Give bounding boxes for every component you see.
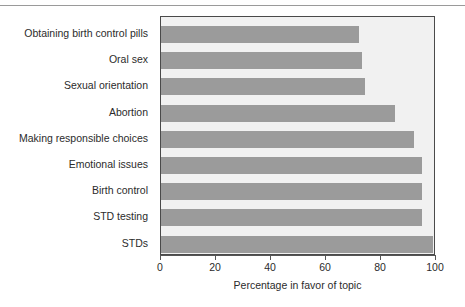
category-label: Sexual orientation bbox=[0, 79, 148, 91]
bar bbox=[161, 78, 365, 95]
bar-series bbox=[161, 17, 434, 254]
category-label: STDs bbox=[0, 237, 148, 249]
x-tick-label: 0 bbox=[157, 261, 163, 273]
bar-row bbox=[161, 236, 434, 253]
bar-row bbox=[161, 209, 434, 226]
bar bbox=[161, 26, 359, 43]
bar-chart-figure: Obtaining birth control pillsOral sexSex… bbox=[0, 0, 465, 307]
category-label: Abortion bbox=[0, 106, 148, 118]
bar bbox=[161, 131, 414, 148]
x-axis-line bbox=[160, 255, 435, 256]
bar-row bbox=[161, 26, 434, 43]
category-label: Making responsible choices bbox=[0, 132, 148, 144]
x-tick-mark bbox=[215, 255, 216, 260]
plot-area bbox=[160, 16, 435, 255]
x-tick-label: 80 bbox=[374, 261, 386, 273]
bar-row bbox=[161, 105, 434, 122]
bar bbox=[161, 209, 422, 226]
x-tick-label: 100 bbox=[426, 261, 444, 273]
x-tick-mark bbox=[380, 255, 381, 260]
x-tick-mark bbox=[160, 255, 161, 260]
bar bbox=[161, 105, 395, 122]
category-label: Oral sex bbox=[0, 53, 148, 65]
category-label: Birth control bbox=[0, 184, 148, 196]
category-label: Emotional issues bbox=[0, 158, 148, 170]
bar bbox=[161, 157, 422, 174]
category-label: Obtaining birth control pills bbox=[0, 27, 148, 39]
bar-row bbox=[161, 131, 434, 148]
top-divider-rule bbox=[0, 5, 465, 6]
bar-row bbox=[161, 157, 434, 174]
bar-row bbox=[161, 78, 434, 95]
bar-row bbox=[161, 52, 434, 69]
x-tick-mark bbox=[270, 255, 271, 260]
bar bbox=[161, 52, 362, 69]
bar bbox=[161, 183, 422, 200]
x-tick-mark bbox=[325, 255, 326, 260]
x-tick-label: 20 bbox=[209, 261, 221, 273]
x-tick-mark bbox=[435, 255, 436, 260]
bar bbox=[161, 236, 433, 253]
x-tick-label: 40 bbox=[264, 261, 276, 273]
bar-row bbox=[161, 183, 434, 200]
category-label: STD testing bbox=[0, 210, 148, 222]
category-axis-labels: Obtaining birth control pillsOral sexSex… bbox=[0, 16, 155, 255]
x-tick-label: 60 bbox=[319, 261, 331, 273]
x-axis-title: Percentage in favor of topic bbox=[160, 279, 435, 292]
